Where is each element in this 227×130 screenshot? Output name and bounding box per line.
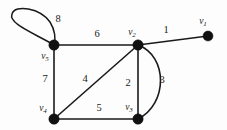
edge-4-v2-v4	[54, 45, 138, 119]
graph-canvas	[0, 0, 227, 130]
vertex-v2	[133, 40, 143, 50]
graph-diagram: v1 v2 v3 v4 v5 1 2 3 4 5 6 7 8	[0, 0, 227, 130]
edge-layer	[12, 8, 208, 119]
edge-1-v2-v1	[138, 36, 208, 45]
edge-8-self-loop-v5	[12, 8, 55, 45]
vertex-v1	[203, 31, 213, 41]
edge-3-v2-v3-curved	[138, 45, 161, 119]
vertex-v5	[49, 40, 59, 50]
vertex-v4	[49, 114, 59, 124]
vertex-v3	[133, 114, 143, 124]
